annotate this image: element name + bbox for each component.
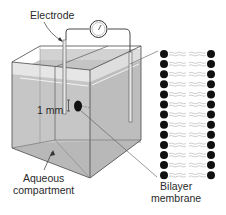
bilayer-membrane-label: Bilayer membrane bbox=[151, 180, 201, 204]
lipid-head-left bbox=[160, 141, 168, 149]
lipid-head-right bbox=[207, 80, 215, 88]
lipid-head-right bbox=[207, 161, 215, 169]
aqueous-label-line1: Aqueous bbox=[13, 172, 74, 184]
meter-icon bbox=[90, 21, 107, 38]
lipid-head-right bbox=[207, 121, 215, 129]
lipid-head-right bbox=[207, 101, 215, 109]
electrode-right bbox=[129, 52, 132, 122]
bilayer-label-line2: membrane bbox=[151, 192, 201, 204]
aqueous-label-line2: compartment bbox=[13, 184, 74, 196]
lipid-head-left bbox=[160, 151, 168, 159]
bilayer-inset bbox=[160, 50, 215, 179]
chamber bbox=[12, 46, 141, 178]
lipid-head-right bbox=[207, 60, 215, 68]
lipid-head-right bbox=[207, 111, 215, 119]
lipid-head-left bbox=[160, 70, 168, 78]
lipid-head-left bbox=[160, 60, 168, 68]
aqueous-compartment-label: Aqueous compartment bbox=[13, 172, 74, 196]
bilayer-label-line1: Bilayer bbox=[151, 180, 201, 192]
lipid-head-left bbox=[160, 111, 168, 119]
lipid-head-right bbox=[207, 131, 215, 139]
lipid-head-left bbox=[160, 131, 168, 139]
lipid-head-left bbox=[160, 161, 168, 169]
lipid-head-right bbox=[207, 141, 215, 149]
lipid-head-right bbox=[207, 90, 215, 98]
lipid-head-right bbox=[207, 70, 215, 78]
lipid-head-left bbox=[160, 50, 168, 58]
lipid-head-left bbox=[160, 90, 168, 98]
lipid-head-right bbox=[207, 171, 215, 179]
lipid-head-left bbox=[160, 80, 168, 88]
lipid-head-right bbox=[207, 151, 215, 159]
electrode-label: Electrode bbox=[30, 9, 74, 21]
hole-size-label: 1 mm bbox=[37, 104, 63, 116]
lipid-head-right bbox=[207, 50, 215, 58]
lipid-head-left bbox=[160, 121, 168, 129]
lipid-head-left bbox=[160, 101, 168, 109]
electrode-left bbox=[63, 40, 66, 114]
lipid-head-left bbox=[160, 171, 168, 179]
